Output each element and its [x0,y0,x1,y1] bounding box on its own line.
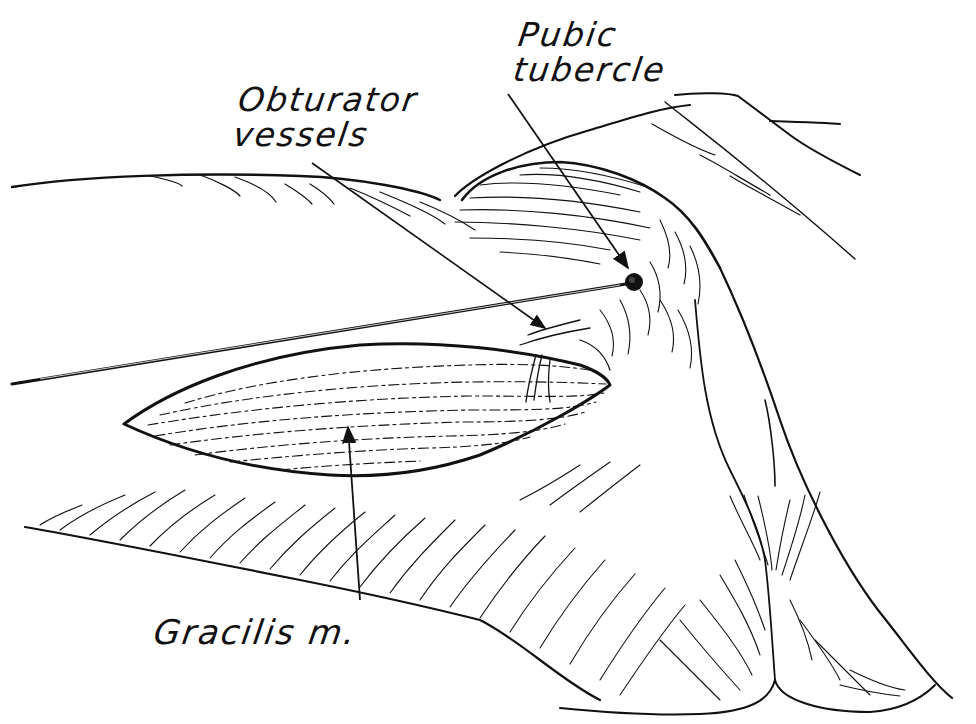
pubic-region [455,162,720,368]
label-gracilis: Gracilis m. [151,615,359,651]
abdomen-contour [455,93,860,259]
right-thigh-contour [560,268,952,715]
thigh-upper-contour [12,174,475,230]
leader-pubic-tubercle [508,94,628,268]
gracilis-muscle [124,320,610,476]
anatomical-figure [0,0,976,724]
leader-gracilis [348,427,360,600]
leader-obturator-vessels [312,163,545,328]
lower-thigh-contour [25,462,685,700]
label-obturator-vessels: Obturator vessels [231,83,420,152]
label-pubic-tubercle: Pubic tubercle [511,18,673,87]
